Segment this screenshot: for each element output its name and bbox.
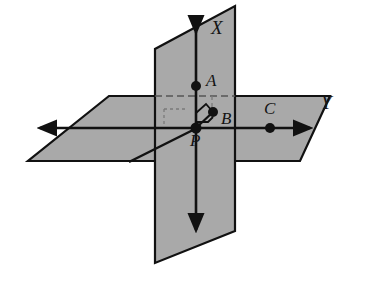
point-b-dot bbox=[208, 107, 218, 117]
axis-label-x: X bbox=[211, 18, 223, 37]
axis-label-y: Y bbox=[321, 93, 332, 112]
point-label-c: C bbox=[264, 100, 275, 117]
geometry-figure: X Y A B C P bbox=[0, 0, 379, 283]
point-label-p: P bbox=[190, 132, 200, 149]
point-label-a: A bbox=[206, 72, 216, 89]
point-c-dot bbox=[265, 123, 275, 133]
point-label-b: B bbox=[221, 110, 231, 127]
point-a-dot bbox=[191, 81, 201, 91]
